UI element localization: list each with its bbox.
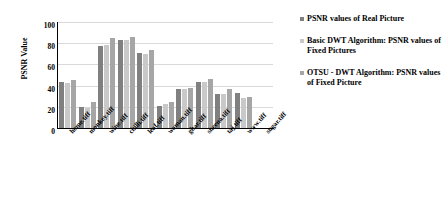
bar-group [157, 22, 174, 128]
bar-group [118, 22, 135, 128]
legend-item[interactable]: OTSU - DWT Algorithm: PSNR values of Fix… [300, 68, 442, 89]
y-tick-label: 60 [48, 64, 56, 72]
chart-legend: PSNR values of Real PictureBasic DWT Alg… [300, 14, 442, 100]
bar [208, 79, 213, 128]
square-swatch-icon [300, 17, 304, 21]
legend-label: Basic DWT Algorithm: PSNR values of Fixe… [307, 36, 442, 57]
x-axis-category-labels: home.tiffmonkey.tiffwine.tiffchilli.tiff… [57, 130, 273, 192]
legend-label: OTSU - DWT Algorithm: PSNR values of Fix… [307, 68, 442, 89]
square-swatch-icon [300, 39, 304, 43]
bar-group [59, 22, 76, 128]
bar [59, 82, 64, 128]
y-axis-ticks: 100806040200 [22, 18, 55, 134]
legend-label: PSNR values of Real Picture [307, 14, 404, 25]
y-tick-label: 100 [44, 22, 55, 30]
bar-group [235, 22, 252, 128]
bar [65, 83, 70, 128]
y-tick-label: 40 [48, 86, 56, 94]
legend-item[interactable]: Basic DWT Algorithm: PSNR values of Fixe… [300, 36, 442, 57]
y-tick-label: 80 [48, 43, 56, 51]
y-tick-label: 20 [48, 107, 56, 115]
square-swatch-icon [300, 71, 304, 75]
bar [130, 37, 135, 128]
legend-item[interactable]: PSNR values of Real Picture [300, 14, 442, 25]
bar-group [196, 22, 213, 128]
psnr-bar-chart-figure: PSNR Value 100806040200 home.tiffmonkey.… [0, 0, 445, 200]
y-tick-label: 0 [51, 128, 55, 136]
y-axis-line [57, 22, 58, 129]
